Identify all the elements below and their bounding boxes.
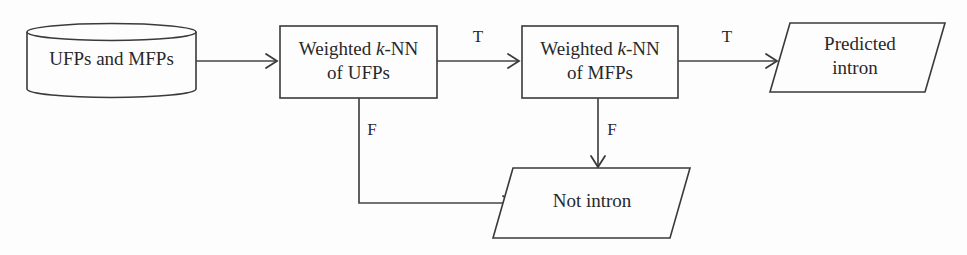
knn-ufp-label-line1: Weighted k-NN — [299, 38, 419, 59]
datastore-label: UFPs and MFPs — [49, 48, 174, 69]
node-knn-mfp[interactable]: Weighted k-NN of MFPs — [522, 26, 678, 98]
edge-label-false-ufp: F — [367, 120, 376, 139]
node-predicted-intron[interactable]: Predicted intron — [770, 23, 945, 92]
flowchart-svg: UFPs and MFPs Weighted k-NN of UFPs T We… — [0, 0, 967, 255]
not-intron-label: Not intron — [553, 190, 632, 211]
cylinder-top-ellipse — [27, 24, 196, 41]
knn-mfp-label-line2: of MFPs — [567, 62, 633, 83]
edge-ufp-false-to-not-intron: F — [359, 98, 514, 210]
edge-mfp-false-to-not-intron: F — [591, 98, 617, 167]
node-datastore[interactable]: UFPs and MFPs — [27, 24, 196, 98]
knn-ufp-label-line2: of UFPs — [327, 62, 390, 83]
edge-label-true-ufp: T — [473, 27, 484, 46]
predicted-intron-label-line2: intron — [832, 57, 878, 78]
node-not-intron[interactable]: Not intron — [493, 168, 690, 238]
edge-elbow-line — [359, 98, 513, 203]
predicted-intron-label-line1: Predicted — [824, 33, 896, 54]
node-knn-ufp[interactable]: Weighted k-NN of UFPs — [280, 26, 437, 98]
flowchart-canvas: UFPs and MFPs Weighted k-NN of UFPs T We… — [0, 0, 967, 255]
edge-ufp-true-to-mfp: T — [437, 27, 519, 68]
knn-mfp-label-line1: Weighted k-NN — [540, 38, 660, 59]
edge-mfp-true-to-predicted: T — [678, 27, 777, 68]
edge-label-false-mfp: F — [607, 120, 616, 139]
edge-datastore-to-ufp — [196, 54, 277, 68]
edge-label-true-mfp: T — [722, 27, 733, 46]
